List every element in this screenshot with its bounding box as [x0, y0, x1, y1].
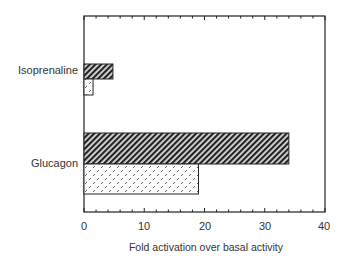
bar-chart: Isoprenaline Glucagon 0 10 20 30 40 Fold…: [0, 0, 344, 259]
bar-isoprenaline-dotted: [84, 79, 93, 95]
x-tick-label: 10: [138, 220, 150, 232]
bars: [84, 64, 289, 194]
x-tick-label: 0: [81, 220, 87, 232]
bar-isoprenaline-hatched: [84, 64, 113, 79]
bar-glucagon-dotted: [84, 164, 198, 194]
category-label-glucagon: Glucagon: [31, 157, 78, 169]
x-tick-label: 20: [199, 220, 211, 232]
x-axis-label: Fold activation over basal activity: [129, 241, 284, 253]
x-tick-label: 40: [318, 220, 330, 232]
category-label-isoprenaline: Isoprenaline: [18, 64, 78, 76]
x-tick-label: 30: [259, 220, 271, 232]
bar-glucagon-hatched: [84, 133, 289, 164]
